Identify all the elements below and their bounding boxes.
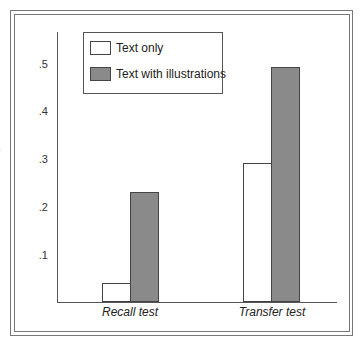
bar-transfer-test-text-only xyxy=(243,163,272,302)
bar-recall-test-text-with-illustrations xyxy=(130,192,159,302)
y-tick-label: .1 xyxy=(28,249,48,261)
x-axis xyxy=(57,302,337,303)
category-label-transfer: Transfer test xyxy=(239,305,305,319)
legend-label: Text only xyxy=(116,41,163,55)
legend-swatch-gray xyxy=(90,67,111,81)
y-tick-label: .2 xyxy=(28,201,48,213)
legend-swatch-white xyxy=(90,41,111,55)
y-tick-label: .5 xyxy=(28,58,48,70)
y-axis xyxy=(57,32,58,302)
category-label-recall: Recall test xyxy=(102,305,158,319)
legend-item-text-only: Text only xyxy=(90,41,163,55)
legend-item-text-with-illustrations: Text with illustrations xyxy=(90,67,226,81)
y-tick-label: .4 xyxy=(28,105,48,117)
y-tick-label: .3 xyxy=(28,153,48,165)
bar-recall-test-text-only xyxy=(102,283,131,302)
legend-label: Text with illustrations xyxy=(116,67,226,81)
legend: Text only Text with illustrations xyxy=(83,32,223,94)
bar-transfer-test-text-with-illustrations xyxy=(271,67,300,302)
